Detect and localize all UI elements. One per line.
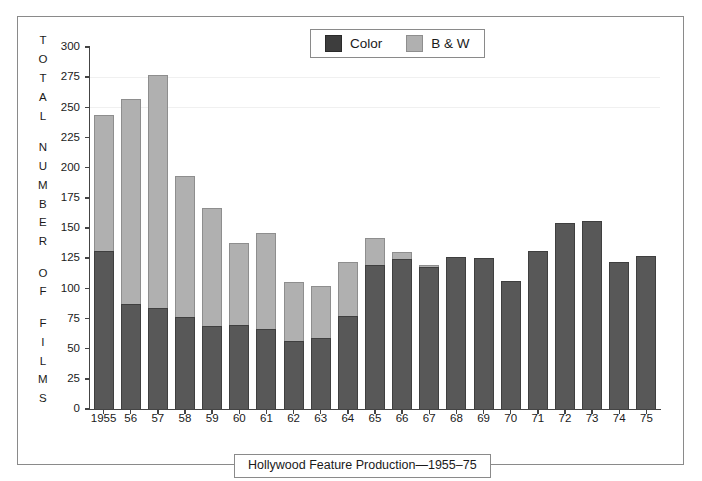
y-axis-tick: 25: [32, 372, 90, 386]
y-axis-tick-label: 125: [61, 252, 85, 264]
y-axis-tick-label: 25: [67, 373, 85, 385]
bar-segment-color: [311, 338, 331, 409]
x-axis-tick-labels: 1955565758596061626364656667686970717273…: [90, 413, 660, 431]
bar-segment-bw: [94, 115, 114, 251]
bar-segment-color: [582, 221, 602, 409]
x-axis-tick-label: 72: [551, 413, 578, 431]
y-axis-tick-label: 175: [61, 192, 85, 204]
x-axis-tick-label: 73: [579, 413, 606, 431]
x-axis-tick-label: 70: [497, 413, 524, 431]
bar-segment-bw: [256, 233, 276, 330]
x-axis-tick-label: 57: [144, 413, 171, 431]
bar-stack: [609, 262, 629, 409]
bar-stack: [311, 286, 331, 409]
bar-segment-color: [284, 341, 304, 409]
x-axis-tick-label: 56: [117, 413, 144, 431]
bar-stack: [582, 221, 602, 409]
bar-segment-color: [392, 259, 412, 409]
chart-figure: TOTALNUMBEROFFILMS Color B & W 025507510…: [17, 16, 684, 465]
y-axis-tick: 225: [32, 131, 90, 145]
bar-segment-bw: [202, 208, 222, 326]
y-axis-tick-label: 100: [61, 283, 85, 295]
x-axis-tick-label: 66: [389, 413, 416, 431]
bar-column: [280, 47, 307, 409]
bar-segment-color: [229, 325, 249, 409]
bar-stack: [284, 282, 304, 409]
bar-segment-bw: [338, 262, 358, 316]
y-axis-tick: 250: [32, 100, 90, 114]
x-axis-tick-label: 58: [171, 413, 198, 431]
bar-segment-color: [94, 251, 114, 409]
bar-segment-color: [175, 317, 195, 409]
x-axis-tick-label: 65: [361, 413, 388, 431]
y-axis-tick: 175: [32, 191, 90, 205]
bar-series-group: [90, 47, 660, 409]
bar-stack: [175, 176, 195, 409]
bar-column: [361, 47, 388, 409]
bar-segment-color: [121, 304, 141, 409]
bar-column: [416, 47, 443, 409]
bar-segment-color: [446, 257, 466, 409]
y-axis-tick-label: 150: [61, 222, 85, 234]
y-axis-tick-label: 50: [67, 343, 85, 355]
y-axis-tick: 100: [32, 281, 90, 295]
bar-stack: [501, 281, 521, 409]
bar-segment-color: [256, 329, 276, 409]
bar-column: [171, 47, 198, 409]
bar-stack: [528, 251, 548, 409]
bar-column: [497, 47, 524, 409]
bar-column: [90, 47, 117, 409]
bar-column: [307, 47, 334, 409]
y-axis-tick-label: 200: [61, 162, 85, 174]
bar-stack: [365, 238, 385, 409]
bar-stack: [446, 257, 466, 409]
bar-column: [199, 47, 226, 409]
bar-stack: [338, 262, 358, 409]
y-axis-title-letter: O: [38, 268, 47, 280]
chart-title: Hollywood Feature Production—1955–75: [248, 459, 477, 473]
y-axis-title-letter: L: [40, 356, 47, 368]
x-axis-tick-label: 75: [633, 413, 660, 431]
y-axis-tick: 125: [32, 251, 90, 265]
bar-column: [470, 47, 497, 409]
bar-segment-bw: [311, 286, 331, 338]
x-axis-tick-label: 61: [253, 413, 280, 431]
x-axis-tick-label: 74: [606, 413, 633, 431]
bar-column: [633, 47, 660, 409]
bar-segment-color: [419, 267, 439, 409]
bar-column: [334, 47, 361, 409]
bar-segment-bw: [175, 176, 195, 317]
bar-stack: [419, 265, 439, 409]
bar-stack: [474, 258, 494, 409]
bar-column: [579, 47, 606, 409]
bar-stack: [256, 233, 276, 409]
y-axis-tick-label: 275: [61, 71, 85, 83]
x-axis-tick-label: 60: [226, 413, 253, 431]
x-axis-tick-label: 64: [334, 413, 361, 431]
bar-segment-color: [501, 281, 521, 409]
y-axis-title-letter: M: [38, 180, 48, 192]
bar-column: [117, 47, 144, 409]
bar-column: [144, 47, 171, 409]
y-axis-tick-label: 75: [67, 313, 85, 325]
bar-segment-color: [365, 265, 385, 409]
x-axis-tick-label: 63: [307, 413, 334, 431]
x-axis-tick-label: 59: [199, 413, 226, 431]
y-axis-tick: 0: [32, 402, 90, 416]
y-axis-tick-label: 0: [74, 403, 85, 415]
y-axis-tick: 50: [32, 342, 90, 356]
bar-column: [524, 47, 551, 409]
bar-segment-bw: [392, 252, 412, 259]
bar-column: [253, 47, 280, 409]
y-axis-title-letter: R: [39, 236, 48, 248]
y-axis-title-letter: O: [38, 54, 47, 66]
bar-segment-bw: [365, 238, 385, 266]
plot-area: 0255075100125150175200225250275300: [90, 47, 660, 409]
y-axis-tick: 200: [32, 161, 90, 175]
x-axis-tick-label: 1955: [90, 413, 117, 431]
bar-column: [443, 47, 470, 409]
bar-segment-color: [474, 258, 494, 409]
bar-segment-bw: [229, 243, 249, 325]
bar-stack: [229, 243, 249, 410]
bar-segment-color: [202, 326, 222, 409]
